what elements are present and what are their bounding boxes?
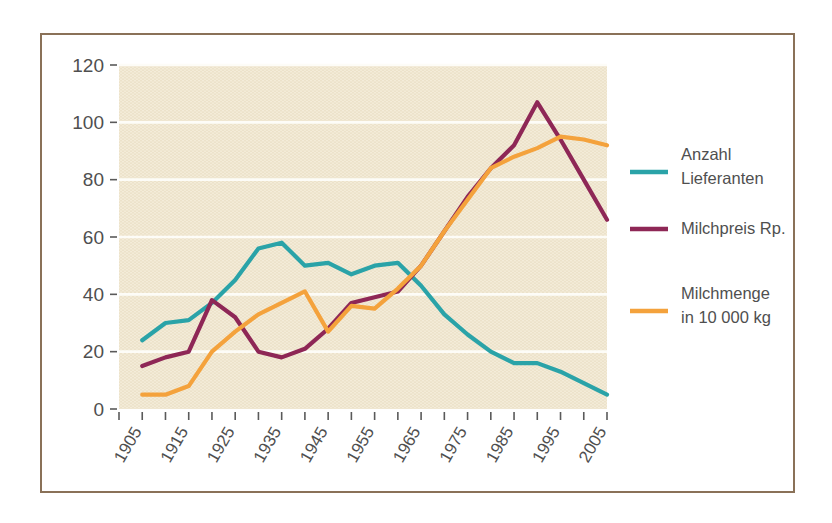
x-tick-label: 1955 — [343, 424, 378, 466]
x-tick-label: 2005 — [575, 424, 610, 466]
page-root: 020406080100120 190519151925193519451955… — [0, 0, 832, 523]
x-tick-label: 1945 — [296, 424, 331, 466]
x-tick-label: 1935 — [250, 424, 285, 466]
y-tick-label: 0 — [93, 399, 104, 420]
legend-label: Milchmenge — [681, 284, 770, 302]
y-tick-label: 60 — [83, 227, 104, 248]
x-tick-label: 1995 — [529, 424, 564, 466]
y-tick-label: 100 — [72, 112, 104, 133]
y-tick-label: 120 — [72, 55, 104, 76]
x-tick-label: 1975 — [436, 424, 471, 466]
x-axis-ticks: 1905191519251935194519551965197519851995… — [110, 412, 610, 466]
y-axis-ticks: 020406080100120 — [72, 55, 117, 420]
x-tick-label: 1925 — [203, 424, 238, 466]
y-tick-label: 20 — [83, 341, 104, 362]
line-chart: 020406080100120 190519151925193519451955… — [42, 35, 793, 491]
legend-label: Anzahl — [681, 145, 731, 163]
legend-label: in 10 000 kg — [681, 308, 771, 326]
x-tick-label: 1915 — [157, 424, 192, 466]
chart-frame: 020406080100120 190519151925193519451955… — [40, 33, 795, 493]
figure: 020406080100120 190519151925193519451955… — [42, 35, 793, 491]
x-tick-label: 1905 — [110, 424, 145, 466]
x-tick-label: 1965 — [389, 424, 424, 466]
legend: AnzahlLieferantenMilchpreis Rp.Milchmeng… — [630, 145, 786, 326]
legend-label: Lieferanten — [681, 169, 764, 187]
x-tick-label: 1985 — [482, 424, 517, 466]
y-tick-label: 40 — [83, 284, 104, 305]
y-tick-label: 80 — [83, 169, 104, 190]
legend-label: Milchpreis Rp. — [681, 219, 786, 237]
